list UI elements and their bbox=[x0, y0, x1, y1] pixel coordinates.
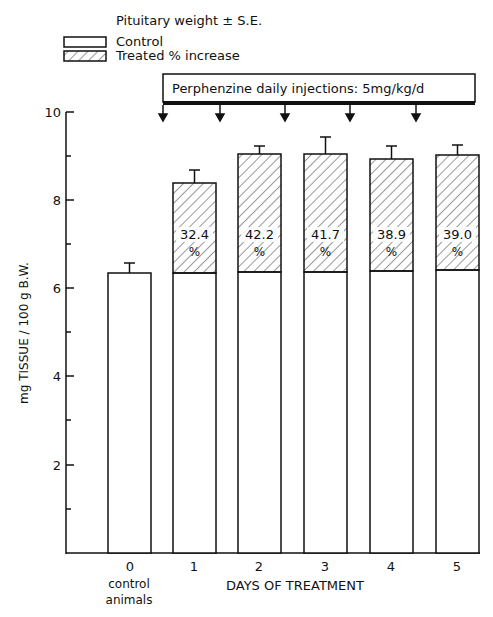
percent-sign: % bbox=[189, 245, 200, 259]
percent-sign: % bbox=[254, 245, 265, 259]
legend-label-treated: Treated % increase bbox=[115, 48, 240, 63]
bar-day-2 bbox=[238, 146, 281, 553]
legend-label-control: Control bbox=[116, 34, 163, 49]
injection-banner: Perphenzine daily injections: 5mg/kg/d bbox=[159, 74, 475, 121]
legend-swatch-treated bbox=[64, 51, 106, 61]
pituitary-weight-chart: Pituitary weight ± S.E. Control Treated … bbox=[0, 0, 493, 617]
x-axis-label: DAYS OF TREATMENT bbox=[226, 578, 364, 593]
control-label-line2: animals bbox=[106, 593, 153, 607]
arrow-down-icon bbox=[281, 114, 289, 121]
x-tick-5: 5 bbox=[453, 559, 461, 574]
x-tick-3: 3 bbox=[321, 559, 329, 574]
control-label-line1: control bbox=[108, 577, 150, 591]
percent-sign: % bbox=[320, 245, 331, 259]
injection-arrows bbox=[159, 105, 420, 121]
y-tick-6: 6 bbox=[53, 281, 61, 296]
x-tick-1: 1 bbox=[190, 559, 198, 574]
arrow-down-icon bbox=[412, 114, 420, 121]
x-tick-labels: 0 1 2 3 4 5 bbox=[126, 559, 461, 574]
y-tick-10: 10 bbox=[44, 105, 61, 120]
percent-label-day-3: 41.7 bbox=[311, 227, 340, 242]
y-tick-4: 4 bbox=[53, 369, 61, 384]
bar-day-3 bbox=[304, 137, 347, 553]
bar-day-4 bbox=[370, 146, 413, 553]
legend-swatch-control bbox=[64, 37, 106, 47]
arrow-down-icon bbox=[216, 114, 224, 121]
percent-sign: % bbox=[452, 245, 463, 259]
arrow-down-icon bbox=[159, 114, 167, 121]
y-tick-8: 8 bbox=[53, 193, 61, 208]
bars bbox=[108, 137, 479, 553]
legend-title: Pituitary weight ± S.E. bbox=[116, 13, 262, 28]
y-tick-2: 2 bbox=[53, 458, 61, 473]
percent-label-day-5: 39.0 bbox=[443, 227, 472, 242]
percent-sign: % bbox=[386, 245, 397, 259]
x-tick-2: 2 bbox=[255, 559, 263, 574]
banner-text: Perphenzine daily injections: 5mg/kg/d bbox=[172, 81, 424, 96]
percent-label-day-2: 42.2 bbox=[245, 227, 274, 242]
bar-day-5 bbox=[436, 145, 479, 553]
percent-label-day-4: 38.9 bbox=[377, 227, 406, 242]
legend: Pituitary weight ± S.E. Control Treated … bbox=[64, 13, 262, 63]
y-tick-labels: 10 8 6 4 2 bbox=[44, 105, 61, 473]
x-tick-0: 0 bbox=[126, 559, 134, 574]
arrow-down-icon bbox=[346, 114, 354, 121]
percent-label-day-1: 32.4 bbox=[180, 227, 209, 242]
y-axis-label: mg TISSUE / 100 g B.W. bbox=[17, 262, 31, 404]
y-axis bbox=[66, 112, 74, 554]
bar-day-0 bbox=[108, 263, 151, 553]
x-tick-4: 4 bbox=[387, 559, 395, 574]
